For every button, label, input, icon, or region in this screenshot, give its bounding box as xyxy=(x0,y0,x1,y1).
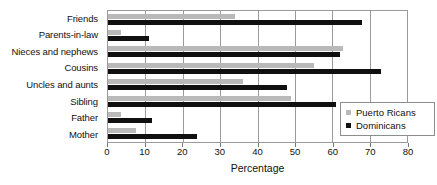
x-tick-label: 10 xyxy=(139,147,150,157)
x-tick-label: 80 xyxy=(403,147,414,157)
x-tick-label: 30 xyxy=(215,147,226,157)
x-tick-label: 40 xyxy=(252,147,263,157)
x-tick-label: 60 xyxy=(327,147,338,157)
bar-dominicans xyxy=(108,52,340,57)
bar-row xyxy=(108,60,407,76)
legend-label: Dominicans xyxy=(356,121,406,131)
category-label: Parents-in-law xyxy=(0,27,103,44)
x-tick-label: 70 xyxy=(365,147,376,157)
legend-swatch-icon xyxy=(346,123,351,128)
bar-puerto-ricans xyxy=(108,14,235,19)
legend: Puerto RicansDominicans xyxy=(340,102,435,136)
bar-row xyxy=(108,44,407,60)
legend-item[interactable]: Puerto Ricans xyxy=(346,106,430,119)
category-label: Mother xyxy=(0,126,103,143)
bar-puerto-ricans xyxy=(108,96,291,101)
category-label: Sibling xyxy=(0,93,103,110)
bar-dominicans xyxy=(108,85,287,90)
bar-chart: FriendsParents-in-lawNieces and nephewsC… xyxy=(0,0,437,185)
bar-puerto-ricans xyxy=(108,63,314,68)
bar-puerto-ricans xyxy=(108,112,121,117)
category-label: Friends xyxy=(0,10,103,27)
bar-dominicans xyxy=(108,36,149,41)
bar-row xyxy=(108,11,407,27)
bar-puerto-ricans xyxy=(108,79,243,84)
bar-dominicans xyxy=(108,20,362,25)
bar-dominicans xyxy=(108,118,152,123)
y-axis-category-labels: FriendsParents-in-lawNieces and nephewsC… xyxy=(0,10,103,143)
bar-puerto-ricans xyxy=(108,30,121,35)
legend-label: Puerto Ricans xyxy=(356,108,416,118)
bar-row xyxy=(108,27,407,43)
x-tick-label: 50 xyxy=(290,147,301,157)
bar-puerto-ricans xyxy=(108,46,343,51)
bar-dominicans xyxy=(108,134,197,139)
x-axis-title: Percentage xyxy=(107,163,408,174)
category-label: Uncles and aunts xyxy=(0,77,103,94)
category-label: Father xyxy=(0,110,103,127)
x-tick-label: 20 xyxy=(177,147,188,157)
category-label: Nieces and nephews xyxy=(0,43,103,60)
legend-item[interactable]: Dominicans xyxy=(346,119,430,132)
bar-dominicans xyxy=(108,102,336,107)
bar-puerto-ricans xyxy=(108,128,136,133)
legend-swatch-icon xyxy=(346,110,351,115)
x-axis-tick-labels: 01020304050607080 xyxy=(107,147,408,161)
category-label: Cousins xyxy=(0,60,103,77)
x-tick-label: 0 xyxy=(104,147,109,157)
bar-row xyxy=(108,77,407,93)
bar-dominicans xyxy=(108,69,381,74)
